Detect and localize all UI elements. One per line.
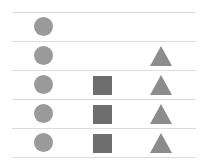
shape-grid bbox=[0, 0, 204, 167]
circle-icon bbox=[34, 17, 53, 36]
circle-icon bbox=[34, 75, 53, 94]
square-icon bbox=[93, 76, 112, 95]
shape-row bbox=[0, 129, 204, 158]
shape-row bbox=[0, 71, 204, 100]
shape-row bbox=[0, 13, 204, 42]
triangle-icon bbox=[150, 46, 172, 66]
shape-row bbox=[0, 100, 204, 129]
square-icon bbox=[93, 105, 112, 124]
circle-icon bbox=[34, 133, 53, 152]
shape-row bbox=[0, 42, 204, 71]
square-icon bbox=[93, 134, 112, 153]
triangle-icon bbox=[150, 133, 172, 153]
circle-icon bbox=[34, 104, 53, 123]
triangle-icon bbox=[150, 75, 172, 95]
triangle-icon bbox=[150, 104, 172, 124]
circle-icon bbox=[34, 46, 53, 65]
